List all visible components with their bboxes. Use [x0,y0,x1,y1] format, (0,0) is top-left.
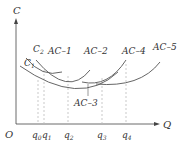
tick-q2: q2 [64,130,74,141]
marker-c1: C1 [24,58,35,69]
tick-q0: q0 [32,130,42,141]
tick-q4: q4 [122,130,132,141]
marker-c2: C2 [33,44,44,55]
label-ac-5: AC–5 [152,42,177,52]
label-ac-1: AC–1 [47,46,72,56]
x-axis-arrow-icon [154,122,160,126]
axes [14,18,160,126]
ac-curves [20,58,160,96]
label-ac-3: AC–3 [73,98,98,108]
origin-label: O [5,129,13,140]
x-axis-label: Q [163,119,171,130]
y-axis-label: C [13,5,21,16]
tick-q3: q3 [97,130,107,141]
y-axis-arrow-icon [14,18,18,24]
cost-curves-diagram: C Q O C2 C1 AC–1 AC–2 AC–3 AC–4 AC–5 q0 … [0,0,188,146]
tick-q1: q1 [42,130,52,141]
label-ac-4: AC–4 [121,46,146,56]
label-ac-2: AC–2 [83,46,108,56]
curve-ac-3 [20,66,118,89]
